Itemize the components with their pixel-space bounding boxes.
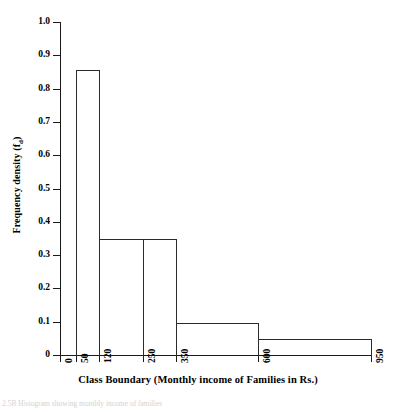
y-axis-tick: 0.4 bbox=[53, 222, 60, 223]
y-axis-tick: 0.8 bbox=[53, 89, 60, 90]
x-axis-tick bbox=[99, 356, 100, 362]
histogram-bar bbox=[76, 70, 100, 356]
y-axis-tick: 1.0 bbox=[53, 22, 60, 23]
y-axis-tick: 0.9 bbox=[53, 55, 60, 56]
y-axis-title-main: Frequency density (f bbox=[11, 144, 22, 234]
y-axis-tick-label: 0 bbox=[45, 348, 50, 361]
histogram-bar bbox=[258, 339, 372, 356]
y-axis-title-close: ) bbox=[11, 136, 22, 139]
x-axis-tick bbox=[143, 356, 144, 362]
y-axis-tick-label: 0.2 bbox=[38, 281, 50, 294]
figure-caption: 2.5B Histogram showing monthly income of… bbox=[2, 399, 262, 408]
y-axis-tick-label: 0.8 bbox=[38, 82, 50, 95]
x-axis-tick-label: 0 bbox=[64, 358, 74, 363]
y-axis-tick-label: 1.0 bbox=[38, 15, 50, 28]
y-axis-tick: 0.6 bbox=[53, 155, 60, 156]
y-axis-title: Frequency density (fd) bbox=[11, 105, 25, 265]
histogram-bar bbox=[99, 239, 144, 356]
y-axis-tick: 0.2 bbox=[53, 288, 60, 289]
y-axis-line bbox=[60, 22, 61, 356]
histogram-bar bbox=[176, 323, 259, 356]
y-axis-tick-label: 0.5 bbox=[38, 182, 50, 195]
histogram-figure: Frequency density (fd) 00.10.20.30.40.50… bbox=[0, 0, 396, 412]
y-axis-tick-label: 0.4 bbox=[38, 215, 50, 228]
y-axis-tick-label: 0.1 bbox=[38, 315, 50, 328]
y-axis-title-subscript: d bbox=[17, 140, 25, 144]
y-axis-tick: 0.1 bbox=[53, 322, 60, 323]
plot-area: 00.10.20.30.40.50.60.70.80.91.0 05012025… bbox=[60, 22, 372, 356]
x-axis-tick bbox=[60, 356, 61, 362]
y-axis-tick: 0.5 bbox=[53, 189, 60, 190]
y-axis-tick: 0.3 bbox=[53, 255, 60, 256]
x-axis-tick-label: 950 bbox=[375, 349, 385, 363]
x-axis-tick bbox=[371, 356, 372, 362]
y-axis-tick-label: 0.6 bbox=[38, 148, 50, 161]
y-axis-tick-label: 0.3 bbox=[38, 248, 50, 261]
y-axis-tick: 0 bbox=[53, 355, 60, 356]
x-axis-tick bbox=[76, 356, 77, 362]
y-axis-tick-label: 0.7 bbox=[38, 115, 50, 128]
x-axis-tick bbox=[258, 356, 259, 362]
y-axis-tick-label: 0.9 bbox=[38, 48, 50, 61]
histogram-bar bbox=[143, 239, 177, 356]
x-axis-title: Class Boundary (Monthly income of Famili… bbox=[0, 374, 396, 385]
x-axis-tick bbox=[176, 356, 177, 362]
y-axis-tick: 0.7 bbox=[53, 122, 60, 123]
